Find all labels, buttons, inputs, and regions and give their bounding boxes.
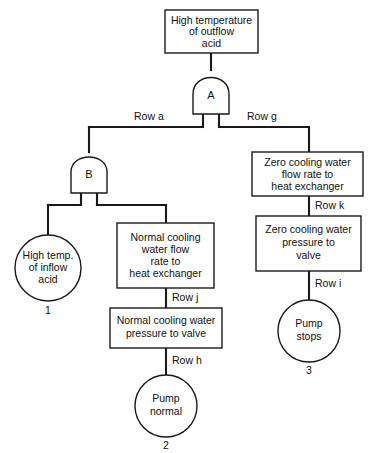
- node-normal-flow-rate: Normal cooling water flow rate to heat e…: [117, 223, 214, 288]
- zero-flow-rate-line-1: Zero cooling water: [264, 156, 351, 168]
- top-event-node: High temperature of outflow acid: [165, 10, 258, 53]
- normal-flow-rate-line-1: Normal cooling: [130, 231, 200, 243]
- fault-tree-canvas: High temperature of outflow acid A Row a…: [0, 0, 370, 453]
- zero-pressure-line-3: valve: [296, 249, 321, 261]
- row-label-g: Row g: [247, 110, 277, 122]
- pump-normal-number: 2: [163, 439, 169, 451]
- node-pump-stops: Pump stops 3: [278, 300, 340, 376]
- normal-flow-rate-line-2: water flow: [141, 243, 190, 255]
- normal-pressure-line-1: Normal cooling water: [117, 314, 216, 326]
- zero-pressure-line-1: Zero cooling water: [265, 223, 352, 235]
- node-high-temp-inflow: High temp. of inflow acid 1: [15, 235, 81, 316]
- pump-stops-line-2: stops: [296, 330, 321, 342]
- normal-pressure-line-2: pressure to valve: [126, 327, 206, 339]
- high-temp-inflow-number: 1: [45, 304, 51, 316]
- normal-flow-rate-line-4: heat exchanger: [129, 267, 202, 279]
- fault-tree-diagram: High temperature of outflow acid A Row a…: [0, 0, 370, 453]
- node-zero-flow-rate: Zero cooling water flow rate to heat exc…: [252, 152, 363, 196]
- gate-a-label: A: [207, 89, 215, 101]
- top-event-line-3: acid: [202, 37, 221, 49]
- row-label-a: Row a: [134, 110, 164, 122]
- high-temp-inflow-line-3: acid: [38, 273, 57, 285]
- row-label-k: Row k: [315, 199, 345, 211]
- top-event-line-2: of outflow: [189, 25, 234, 37]
- pump-stops-line-1: Pump: [295, 317, 323, 329]
- zero-flow-rate-line-2: flow rate to: [282, 168, 334, 180]
- row-label-j: Row j: [172, 291, 198, 303]
- pump-normal-line-2: normal: [150, 405, 182, 417]
- zero-pressure-line-2: pressure to: [282, 236, 335, 248]
- pump-stops-number: 3: [306, 364, 312, 376]
- gate-b-label: B: [85, 168, 92, 180]
- node-pump-normal: Pump normal 2: [135, 375, 197, 451]
- node-normal-pressure: Normal cooling water pressure to valve: [110, 308, 222, 348]
- row-label-i: Row i: [315, 277, 341, 289]
- zero-flow-rate-line-3: heat exchanger: [271, 180, 344, 192]
- row-label-h: Row h: [172, 354, 202, 366]
- node-zero-pressure: Zero cooling water pressure to valve: [256, 216, 361, 271]
- normal-flow-rate-line-3: rate to: [151, 255, 181, 267]
- high-temp-inflow-line-1: High temp.: [23, 249, 74, 261]
- gate-a-node: A: [193, 78, 229, 115]
- gate-b-node: B: [71, 157, 107, 193]
- top-event-line-1: High temperature: [171, 14, 252, 26]
- high-temp-inflow-line-2: of inflow: [29, 261, 68, 273]
- pump-normal-line-1: Pump: [152, 392, 180, 404]
